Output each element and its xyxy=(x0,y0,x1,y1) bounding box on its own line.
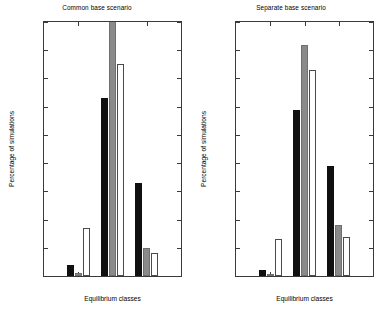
y-tick-mark xyxy=(44,107,48,108)
bar xyxy=(109,21,116,276)
bar xyxy=(135,183,142,276)
y-tick-mark xyxy=(177,248,181,249)
bar xyxy=(343,237,350,277)
y-tick-mark xyxy=(44,78,48,79)
bar xyxy=(335,225,342,276)
bar xyxy=(67,265,74,276)
y-tick-mark xyxy=(44,163,48,164)
figure: Common base scenario Percentage of simul… xyxy=(0,0,388,317)
y-tick-mark xyxy=(369,50,373,51)
y-tick-mark xyxy=(44,22,48,23)
x-axis-label: Equilibrium classes xyxy=(43,295,182,302)
y-tick-mark xyxy=(369,107,373,108)
plot-axes: 0102030405060708090012 xyxy=(43,21,182,277)
y-tick-mark xyxy=(177,78,181,79)
bar xyxy=(327,166,334,276)
y-tick-mark xyxy=(369,163,373,164)
y-tick-mark xyxy=(369,276,373,277)
x-tick-mark xyxy=(147,22,148,26)
bar xyxy=(143,248,150,276)
y-tick-mark xyxy=(44,276,48,277)
y-tick-mark xyxy=(236,276,240,277)
y-tick-mark xyxy=(177,163,181,164)
bar xyxy=(117,64,124,276)
y-tick-mark xyxy=(236,50,240,51)
y-tick-mark xyxy=(177,276,181,277)
y-tick-mark xyxy=(44,191,48,192)
chart-title: Separate base scenario xyxy=(194,4,388,11)
bar xyxy=(293,110,300,277)
y-tick-mark xyxy=(177,107,181,108)
y-tick-mark xyxy=(44,135,48,136)
y-tick-mark xyxy=(369,191,373,192)
y-tick-mark xyxy=(177,22,181,23)
y-tick-mark xyxy=(369,135,373,136)
y-tick-mark xyxy=(177,191,181,192)
x-tick-mark xyxy=(270,22,271,26)
y-tick-mark xyxy=(236,22,240,23)
x-tick-mark xyxy=(339,22,340,26)
y-tick-mark xyxy=(369,22,373,23)
plot-area: 0102030405060708090012 xyxy=(236,22,373,276)
bar xyxy=(275,239,282,276)
bar xyxy=(267,274,274,276)
chart-title: Common base scenario xyxy=(0,4,194,11)
chart-panel-common-base: Common base scenario Percentage of simul… xyxy=(0,0,194,317)
x-axis-label: Equilibrium classes xyxy=(235,295,374,302)
bar xyxy=(151,253,158,276)
bar xyxy=(301,45,308,276)
chart-panel-separate-base: Separate base scenario Percentage of sim… xyxy=(194,0,388,317)
y-tick-mark xyxy=(236,220,240,221)
bar xyxy=(101,98,108,276)
y-tick-mark xyxy=(236,163,240,164)
bar xyxy=(309,70,316,276)
y-tick-mark xyxy=(177,135,181,136)
y-tick-mark xyxy=(44,248,48,249)
y-tick-mark xyxy=(236,107,240,108)
y-axis-label: Percentage of simulations xyxy=(200,111,207,187)
y-axis-label: Percentage of simulations xyxy=(8,111,15,187)
bar xyxy=(259,270,266,276)
y-tick-mark xyxy=(236,135,240,136)
y-tick-mark xyxy=(236,191,240,192)
y-tick-mark xyxy=(44,220,48,221)
bar xyxy=(75,273,82,276)
y-tick-mark xyxy=(44,50,48,51)
y-tick-mark xyxy=(369,248,373,249)
plot-axes: 0102030405060708090012 xyxy=(235,21,374,277)
y-tick-mark xyxy=(236,78,240,79)
y-tick-mark xyxy=(177,50,181,51)
y-tick-mark xyxy=(236,248,240,249)
bar xyxy=(83,228,90,276)
y-tick-mark xyxy=(369,220,373,221)
y-tick-mark xyxy=(369,78,373,79)
x-tick-mark xyxy=(305,22,306,26)
x-tick-mark xyxy=(78,22,79,26)
plot-area: 0102030405060708090012 xyxy=(44,22,181,276)
y-tick-mark xyxy=(177,220,181,221)
